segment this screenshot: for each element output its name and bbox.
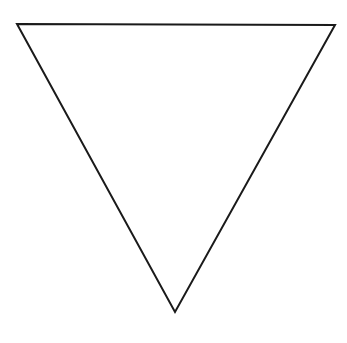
diagram-canvas [0,0,347,343]
inverted-triangle-shape [17,24,335,312]
